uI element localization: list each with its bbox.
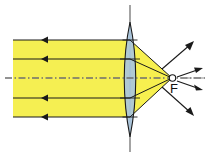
arrowhead-diverging-down	[186, 107, 195, 116]
biconvex-converging-lens	[124, 22, 136, 137]
ray-diagram-figure: F	[0, 0, 210, 157]
incident-parallel-beam	[13, 40, 130, 117]
arrowhead-diverging-up	[185, 41, 194, 51]
arrowhead-diverging-upper-right	[194, 68, 203, 74]
diverging-ray-up	[162, 44, 191, 69]
focal-point-label: F	[170, 81, 178, 96]
arrowhead-diverging-lower-right	[194, 85, 203, 91]
ray-diagram-canvas: F	[0, 0, 210, 157]
